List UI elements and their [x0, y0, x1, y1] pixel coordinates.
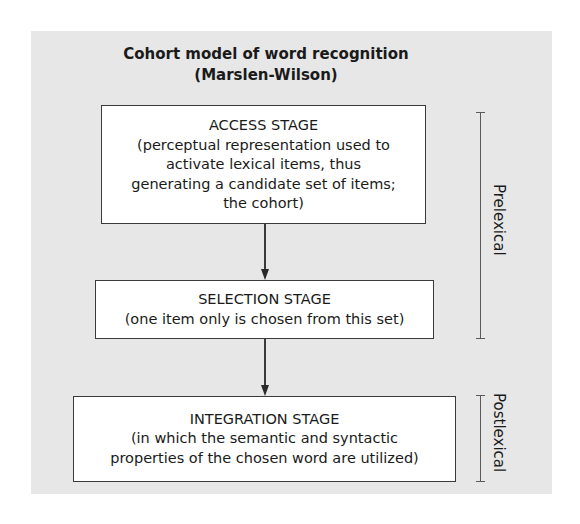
access-stage-desc-line: (perceptual representation used to: [137, 136, 390, 156]
postlexical-bracket: [476, 395, 485, 482]
prelexical-label: Prelexical: [490, 184, 508, 256]
title-line-2: (Marslen-Wilson): [31, 65, 501, 86]
access-stage-desc-line: the cohort): [223, 194, 304, 214]
access-stage-box: ACCESS STAGE (perceptual representation …: [101, 105, 426, 224]
title-line-1: Cohort model of word recognition: [31, 44, 501, 65]
selection-stage-heading: SELECTION STAGE: [198, 290, 331, 310]
integration-stage-box: INTEGRATION STAGE (in which the semantic…: [73, 396, 456, 482]
bracket-line: [480, 112, 481, 339]
selection-stage-box: SELECTION STAGE (one item only is chosen…: [95, 280, 434, 339]
access-stage-desc-line: activate lexical items, thus: [166, 155, 361, 175]
bracket-cap-bottom: [476, 481, 485, 482]
postlexical-label: Postlexical: [490, 393, 508, 472]
arrow-shaft: [264, 339, 266, 386]
integration-stage-desc-line: properties of the chosen word are utiliz…: [110, 449, 419, 469]
selection-stage-desc-line: (one item only is chosen from this set): [125, 310, 405, 330]
bracket-cap-bottom: [476, 338, 485, 339]
integration-stage-desc-line: (in which the semantic and syntactic: [131, 429, 398, 449]
diagram-title: Cohort model of word recognition (Marsle…: [31, 44, 501, 86]
arrow-down-icon: [261, 269, 269, 280]
access-stage-desc-line: generating a candidate set of items;: [131, 175, 395, 195]
integration-stage-heading: INTEGRATION STAGE: [190, 410, 340, 430]
arrow-shaft: [264, 224, 266, 270]
access-stage-heading: ACCESS STAGE: [209, 116, 318, 136]
bracket-line: [480, 395, 481, 482]
prelexical-bracket: [476, 112, 485, 339]
arrow-down-icon: [261, 385, 269, 396]
